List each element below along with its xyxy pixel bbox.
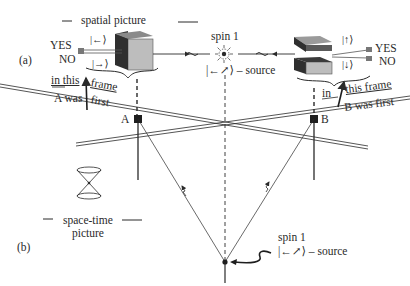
source-pointer-arrow [234,251,271,263]
right-counter-yes-icon [366,47,372,52]
source-spin-label: spin 1 [211,30,239,42]
right-state-up: |↑⟩ [342,34,353,46]
right-state-down: |↓⟩ [342,59,353,71]
left-state-up: |←⟩ [90,34,107,46]
event-a-label: A [121,113,129,125]
right-yes-label: YES [375,42,397,54]
right-no-label: NO [379,55,396,67]
event-b-label: B [321,113,329,125]
source-state-label: |←↗⟩ – source [206,64,275,76]
spacetime-title-line2: picture [72,227,104,239]
left-state-down: |→⟩ [92,58,109,70]
left-detector-icon [115,31,153,70]
source-event-dot [222,259,227,264]
source-burst-icon [215,45,233,63]
frame-a-a-was: A was [54,92,82,104]
source-b-state-label: |←↗⟩ – source [278,245,347,257]
left-yes-label: YES [50,39,72,51]
frame-a-arrow [86,78,87,110]
source-b-spin-label: spin 1 [278,231,306,243]
frame-a-in-this: in this [51,74,79,86]
frame-b-in: in [322,87,331,99]
right-detector-icon [294,36,332,74]
panel-a-label: (a) [19,54,32,66]
photon-arrow-b [266,182,269,192]
spatial-picture-title: spatial picture [81,14,146,26]
right-counter-no-icon [366,56,372,61]
spacetime-title-line1: space-time [63,214,113,226]
light-cone-icon [77,167,101,199]
lightline-to-a [138,119,225,262]
panel-b-label: (b) [17,241,30,253]
left-no-label: NO [59,53,76,65]
left-counter-icon [78,48,84,54]
